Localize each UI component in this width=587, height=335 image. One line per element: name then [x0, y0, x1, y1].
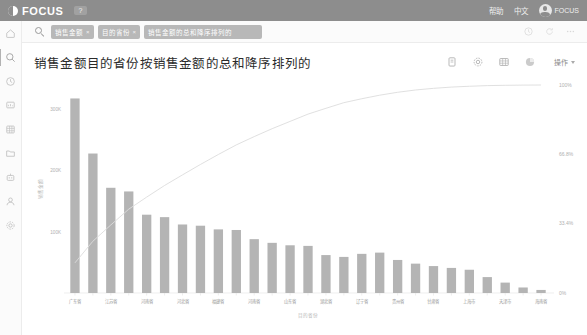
- svg-text:66.8%: 66.8%: [559, 151, 574, 157]
- sidebar-item-search[interactable]: [4, 51, 17, 64]
- avatar: [539, 4, 552, 17]
- bar[interactable]: [536, 290, 545, 293]
- bar[interactable]: [483, 277, 492, 293]
- search-bar[interactable]: 销售金额 × 目的省份 × 销售金额的总和降序排列的: [0, 21, 587, 43]
- bar[interactable]: [106, 188, 115, 293]
- bar[interactable]: [357, 254, 366, 293]
- sidebar-item-user[interactable]: [4, 195, 17, 208]
- bar[interactable]: [88, 154, 97, 293]
- x-axis-tick-label: 江苏省: [105, 298, 118, 305]
- x-axis-tick-label: 河南省: [248, 298, 261, 305]
- bar[interactable]: [232, 230, 241, 293]
- x-axis-tick-label: 海南省: [535, 298, 548, 305]
- x-axis-tick-label: 天津市: [499, 298, 512, 305]
- x-axis-tick-label: 湖北省: [320, 298, 333, 305]
- x-axis-tick-label: 福建省: [212, 298, 225, 305]
- x-axis-tick-label: 河南省: [141, 298, 154, 305]
- bar[interactable]: [429, 266, 438, 293]
- more-icon[interactable]: [566, 27, 575, 36]
- search-token-label: 销售金额: [55, 27, 83, 37]
- search-token[interactable]: 销售金额的总和降序排列的: [144, 25, 262, 39]
- sidebar-item-recent[interactable]: [4, 75, 17, 88]
- x-axis-tick-label: 甘肃省: [427, 298, 440, 305]
- bar[interactable]: [285, 245, 294, 293]
- sidebar-item-folder[interactable]: [4, 147, 17, 160]
- page-title: 销售金额目的省份按销售金额的总和降序排列的: [34, 53, 311, 72]
- bar[interactable]: [250, 239, 259, 293]
- bar[interactable]: [303, 246, 312, 293]
- language-link[interactable]: 中文: [514, 5, 528, 16]
- bar[interactable]: [393, 260, 402, 293]
- bar[interactable]: [339, 257, 348, 293]
- logo[interactable]: FOCUS: [8, 5, 64, 17]
- bar[interactable]: [518, 287, 527, 293]
- user-name: FOCUS: [555, 7, 580, 14]
- sidebar: [0, 21, 22, 335]
- bar[interactable]: [214, 229, 223, 293]
- search-bar-actions: [524, 27, 587, 36]
- bar[interactable]: [375, 253, 384, 293]
- chart-card: 销售金额目的省份按销售金额的总和降序排列的 操作: [22, 43, 587, 335]
- chart-toolbar: 操作: [446, 56, 575, 68]
- top-bar: FOCUS ? 帮助 中文 FOCUS: [0, 0, 587, 21]
- bar[interactable]: [160, 217, 169, 293]
- svg-text:200K: 200K: [50, 168, 62, 173]
- bar[interactable]: [411, 264, 420, 293]
- bar[interactable]: [501, 283, 510, 293]
- x-axis-tick-label: 上海市: [463, 298, 476, 305]
- sidebar-item-board[interactable]: [4, 99, 17, 112]
- x-axis-tick-label: 河北省: [177, 298, 190, 305]
- search-token[interactable]: 销售金额 ×: [51, 25, 94, 39]
- bar[interactable]: [267, 243, 276, 293]
- bar[interactable]: [196, 226, 205, 293]
- top-badge[interactable]: ?: [74, 6, 88, 15]
- logo-text: FOCUS: [22, 5, 64, 17]
- operation-dropdown[interactable]: 操作: [554, 57, 575, 67]
- chart-canvas: 100K200K300K0%33.4%66.8%100%广东省江苏省河南省河北省…: [22, 71, 587, 335]
- search-token[interactable]: 目的省份 ×: [98, 25, 141, 39]
- operation-label: 操作: [554, 57, 568, 67]
- chart-card-header: 销售金额目的省份按销售金额的总和降序排列的 操作: [22, 43, 587, 71]
- history-icon[interactable]: [524, 27, 533, 36]
- pin-icon[interactable]: [446, 56, 458, 68]
- chevron-down-icon: [571, 61, 575, 64]
- help-link[interactable]: 帮助: [489, 5, 503, 16]
- app-root: FOCUS ? 帮助 中文 FOCUS 销售金额 × 目的省份 × 销售金额的总…: [0, 0, 587, 335]
- sidebar-item-table[interactable]: [4, 123, 17, 136]
- logo-icon: [8, 6, 18, 16]
- x-axis-title: 目的省份: [298, 312, 318, 319]
- refresh-icon[interactable]: [545, 27, 554, 36]
- x-axis-tick-label: 辽宁省: [356, 298, 369, 305]
- close-icon[interactable]: ×: [86, 29, 90, 35]
- pie-icon[interactable]: [524, 56, 536, 68]
- pareto-chart: 100K200K300K0%33.4%66.8%100%广东省江苏省河南省河北省…: [22, 71, 587, 335]
- search-token-label: 销售金额的总和降序排列的: [148, 27, 232, 37]
- bar[interactable]: [321, 255, 330, 293]
- svg-text:0%: 0%: [559, 290, 567, 296]
- user-menu[interactable]: FOCUS: [539, 4, 580, 17]
- gear-icon[interactable]: [472, 56, 484, 68]
- sidebar-item-home[interactable]: [4, 27, 17, 40]
- bar-series: [70, 98, 545, 293]
- top-bar-right: 帮助 中文 FOCUS: [489, 4, 580, 17]
- bar[interactable]: [465, 270, 474, 293]
- svg-text:33.4%: 33.4%: [559, 220, 574, 226]
- search-token-label: 目的省份: [102, 27, 130, 37]
- bar[interactable]: [70, 98, 79, 293]
- bar[interactable]: [142, 215, 151, 293]
- bar[interactable]: [178, 224, 187, 293]
- sidebar-item-settings[interactable]: [4, 219, 17, 232]
- bar[interactable]: [447, 268, 456, 293]
- close-icon[interactable]: ×: [133, 29, 137, 35]
- y-axis-title: 销售金额: [37, 179, 44, 199]
- x-axis-tick-label: 贵州省: [392, 298, 405, 305]
- x-axis-tick-label: 山东省: [284, 298, 297, 305]
- svg-text:100K: 100K: [50, 230, 62, 235]
- sidebar-item-robot[interactable]: [4, 171, 17, 184]
- table-icon[interactable]: [498, 56, 510, 68]
- svg-text:100%: 100%: [559, 82, 572, 88]
- svg-text:300K: 300K: [50, 107, 62, 112]
- search-icon: [35, 27, 45, 37]
- x-axis-tick-label: 广东省: [69, 298, 82, 305]
